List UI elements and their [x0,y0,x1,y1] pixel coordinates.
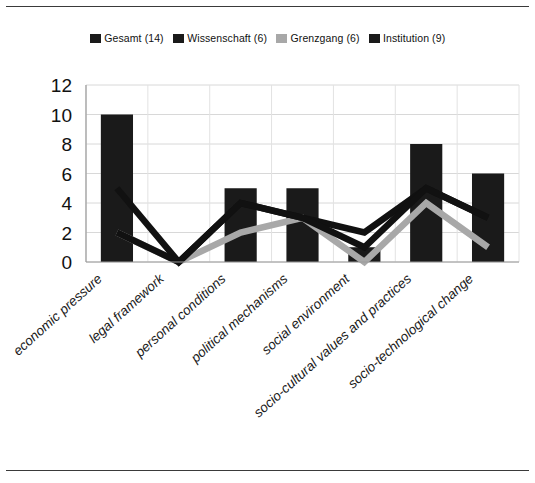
y-axis-tick-label: 0 [61,252,72,273]
chart-figure: Gesamt (14)Wissenschaft (6)Grenzgang (6)… [0,0,535,483]
x-axis-category-labels: economic pressurelegal frameworkpersonal… [10,270,476,420]
y-axis-tick-label: 4 [61,193,72,214]
y-axis-tick-label: 12 [51,75,72,96]
chart-plot-area: 024681012 economic pressurelegal framewo… [0,0,535,483]
x-axis-category-label: economic pressure [10,271,105,358]
y-axis-tick-labels: 024681012 [51,75,73,273]
y-axis-tick-label: 6 [61,164,72,185]
y-axis-tick-label: 10 [51,105,72,126]
y-axis-tick-label: 2 [61,223,72,244]
y-axis-tick-label: 8 [61,134,72,155]
bar [225,188,257,262]
x-axis-category-label: socio-technological change [345,271,476,391]
